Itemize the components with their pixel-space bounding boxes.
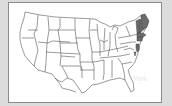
state-new-jersey [136, 44, 139, 52]
us-map [0, 0, 172, 106]
new-england-highlight [134, 14, 149, 56]
state-massachusetts [137, 33, 146, 37]
us-outline [20, 12, 148, 93]
state-delaware [134, 52, 136, 56]
state-connecticut-ri [137, 37, 143, 41]
